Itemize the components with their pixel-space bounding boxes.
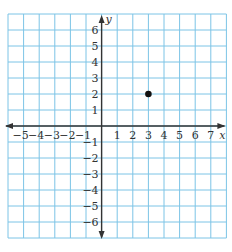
y-axis-up-arrow-icon bbox=[99, 15, 105, 23]
y-tick-label: 5 bbox=[92, 40, 99, 53]
y-tick-label: −6 bbox=[82, 216, 98, 229]
y-tick-label: −3 bbox=[82, 168, 98, 181]
coordinate-plane: −5−4−3−2−11234567654321−1−2−3−4−5−6xy bbox=[0, 0, 232, 252]
y-tick-label: −1 bbox=[82, 136, 98, 149]
x-tick-label: 4 bbox=[161, 129, 168, 142]
y-axis-label: y bbox=[105, 13, 113, 26]
y-tick-label: 2 bbox=[92, 88, 99, 101]
x-tick-label: 3 bbox=[145, 129, 152, 142]
y-tick-label: −2 bbox=[82, 152, 98, 165]
x-tick-label: −2 bbox=[59, 129, 75, 142]
x-tick-label: −4 bbox=[28, 129, 44, 142]
x-tick-label: 6 bbox=[192, 129, 199, 142]
x-tick-label: 1 bbox=[114, 129, 121, 142]
y-tick-label: 6 bbox=[92, 24, 99, 37]
y-tick-label: −4 bbox=[82, 184, 98, 197]
x-tick-label: 7 bbox=[207, 129, 214, 142]
data-point bbox=[145, 91, 152, 98]
tick-labels: −5−4−3−2−11234567654321−1−2−3−4−5−6xy bbox=[12, 13, 226, 229]
x-tick-label: 2 bbox=[129, 129, 136, 142]
axes bbox=[5, 15, 225, 239]
x-axis-label: x bbox=[219, 129, 226, 142]
x-tick-label: −3 bbox=[44, 129, 60, 142]
y-tick-label: 4 bbox=[92, 56, 99, 69]
x-tick-label: −5 bbox=[12, 129, 28, 142]
y-tick-label: 1 bbox=[92, 104, 99, 117]
plotted-points bbox=[145, 91, 152, 98]
x-tick-label: 5 bbox=[176, 129, 183, 142]
y-tick-label: −5 bbox=[82, 200, 98, 213]
y-tick-label: 3 bbox=[92, 72, 99, 85]
